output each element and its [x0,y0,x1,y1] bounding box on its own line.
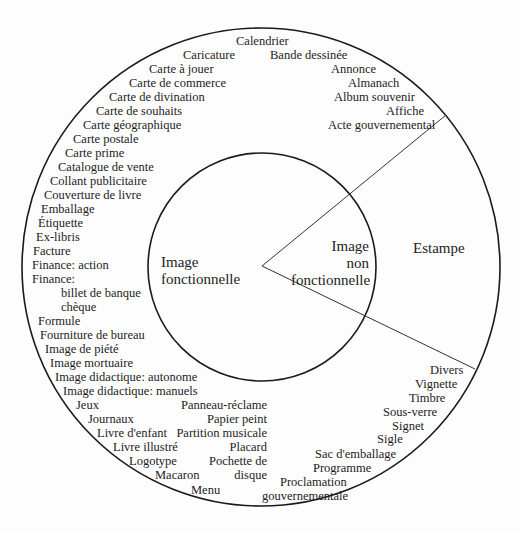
item-finance-action: Finance: action [32,258,109,272]
item-gouvernementale: gouvernementale [262,489,348,503]
item-fourniture-de-bureau: Fourniture de bureau [40,328,145,342]
item-bande-dessinee: Bande dessinée [270,48,347,62]
item-image-didactique-autonome: Image didactique: autonome [55,370,197,384]
item-journaux: Journaux [88,412,134,426]
inner-label-nonfunctional: Image non fonctionnelle [291,238,369,289]
item-livre-denfant: Livre d'enfant [97,426,167,440]
item-partition-musicale: Partition musicale [166,426,267,440]
item-almanach: Almanach [348,76,399,90]
item-billet-de-banque: billet de banque [61,286,141,300]
item-timbre: Timbre [409,391,445,405]
item-facture: Facture [33,244,70,258]
item-finance: Finance: [32,272,75,286]
inner-label-functional: Image fonctionnelle [161,254,240,288]
item-image-mortuaire: Image mortuaire [50,356,133,370]
inner-label-nonfunctional-line1: Image [291,238,369,255]
item-catalogue-de-vente: Catalogue de vente [58,160,154,174]
inner-label-functional-line2: fonctionnelle [161,271,240,288]
item-placard: Placard [166,440,267,454]
outer-label-estampe: Estampe [413,240,465,257]
item-sac-demballage: Sac d'emballage [315,447,396,461]
item-carte-geographique: Carte géographique [83,118,181,132]
item-image-didactique-manuels: Image didactique: manuels [63,384,198,398]
item-papier-peint: Papier peint [166,412,267,426]
item-carte-postale: Carte postale [73,132,139,146]
item-carte-de-souhaits: Carte de souhaits [96,104,182,118]
item-carte-de-divination: Carte de divination [109,90,205,104]
item-ex-libris: Ex-libris [36,230,80,244]
item-panneau-reclame: Panneau-réclame [166,398,267,412]
item-jeux: Jeux [76,398,99,412]
item-formule: Formule [38,314,80,328]
item-carte-a-jouer: Carte à jouer [149,62,214,76]
item-collant-publicitaire: Collant publicitaire [50,174,147,188]
inner-label-nonfunctional-line3: fonctionnelle [291,272,369,289]
item-caricature: Caricature [183,48,235,62]
item-image-de-piete: Image de piété [45,342,119,356]
item-couverture-de-livre: Couverture de livre [44,188,141,202]
item-etiquette: Étiquette [38,216,83,230]
item-sous-verre: Sous-verre [383,405,437,419]
item-carte-de-commerce: Carte de commerce [129,76,226,90]
item-sigle: Sigle [377,432,403,446]
item-cheque: chèque [61,300,96,314]
item-vignette: Vignette [415,377,457,391]
item-album-souvenir: Album souvenir [334,90,415,104]
item-divers: Divers [430,363,463,377]
item-programme: Programme [313,461,371,475]
item-annonce: Annonce [331,62,376,76]
item-pochette-de: Pochette de [166,454,267,468]
item-menu: Menu [191,483,220,497]
item-acte-gouvernemental: Acte gouvernemental [328,118,435,132]
item-macaron: Macaron [155,468,199,482]
item-emballage: Emballage [41,202,94,216]
item-affiche: Affiche [386,104,424,118]
item-carte-prime: Carte prime [65,146,124,160]
inner-label-nonfunctional-line2: non [291,255,369,272]
item-calendrier: Calendrier [236,34,289,48]
item-signet: Signet [392,419,424,433]
inner-label-functional-line1: Image [161,254,240,271]
item-proclamation: Proclamation [280,475,347,489]
